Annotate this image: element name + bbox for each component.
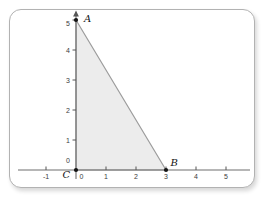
y-tick-label: 0: [66, 157, 70, 164]
figure-stage: -1 0 1 2 3 4 5 0 1 2 3 4 5 A B C: [0, 0, 268, 197]
y-tick-label: 2: [66, 107, 70, 114]
point-a-label: A: [83, 13, 91, 24]
point-a-dot: [74, 18, 78, 22]
y-tick-label: 5: [66, 20, 70, 27]
point-c-label: C: [63, 169, 71, 180]
y-tick-label: 3: [66, 77, 70, 84]
x-tick-label: 0: [80, 173, 84, 180]
y-tick-label: 1: [66, 137, 70, 144]
x-tick-label: 5: [224, 173, 228, 180]
triangle-abc-region: [76, 20, 166, 170]
x-tick-label: 2: [134, 173, 138, 180]
x-tick-label: 1: [104, 173, 108, 180]
point-b-dot: [164, 168, 168, 172]
coordinate-plane: -1 0 1 2 3 4 5 0 1 2 3 4 5 A B C: [0, 0, 268, 197]
point-b-label: B: [170, 157, 178, 168]
x-tick-label: 4: [194, 173, 198, 180]
y-tick-label: 4: [66, 47, 70, 54]
x-tick-label: -1: [43, 173, 49, 180]
y-axis-arrow-icon: [73, 11, 79, 17]
x-tick-label: 3: [164, 173, 168, 180]
point-c-dot: [74, 168, 78, 172]
